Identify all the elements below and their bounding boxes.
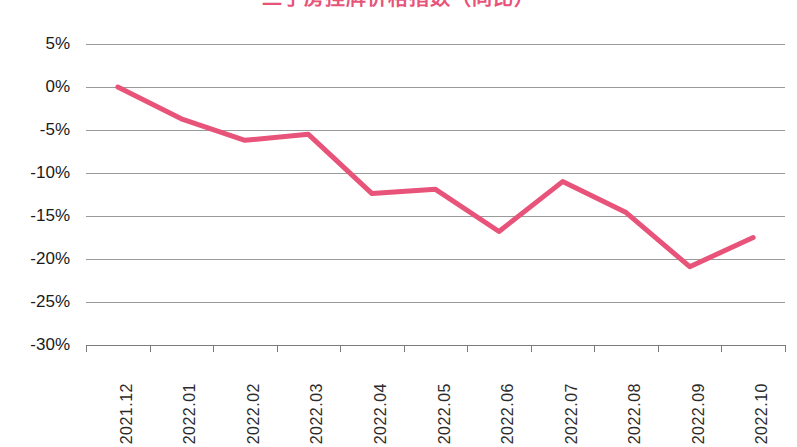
chart-container: 二手房挂牌价格指数（同比） 5%0%-5%-10%-15%-20%-25%-30… [0,0,797,447]
y-axis-tick-label: -5% [0,121,70,138]
x-axis-tick-label-text: 2022.09 [690,383,708,444]
x-axis-tick-label-text: 2022.08 [626,383,644,444]
x-axis-tick-mark [785,345,786,352]
x-axis-tick-label: 2022.10 [745,356,746,444]
gridline [86,87,785,88]
x-axis-tick-label-text: 2022.05 [436,383,454,444]
y-axis-tick-label: -15% [0,207,70,224]
y-axis-tick-label: -25% [0,293,70,310]
y-axis-tick-label: -30% [0,336,70,353]
plot-area [86,44,785,345]
x-axis-tick-mark [658,345,659,352]
x-axis-tick-mark [213,345,214,352]
gridline [86,173,785,174]
x-axis-tick-label: 2022.05 [428,356,429,444]
x-axis-tick-mark [86,345,87,352]
x-axis-tick-label: 2022.09 [682,356,683,444]
x-axis-tick-label: 2022.08 [618,356,619,444]
y-axis-tick-label: 0% [0,78,70,95]
x-axis-tick-mark [721,345,722,352]
x-axis-tick-label-text: 2022.04 [372,383,390,444]
x-axis-tick-label: 2022.01 [173,356,174,444]
x-axis-tick-mark [594,345,595,352]
x-axis-tick-label: 2022.03 [300,356,301,444]
x-axis-tick-label-text: 2022.10 [753,383,771,444]
y-axis-tick-label: -10% [0,164,70,181]
x-axis-tick-label-text: 2022.03 [308,383,326,444]
x-axis-tick-mark [340,345,341,352]
x-axis-tick-mark [277,345,278,352]
x-axis-tick-mark [467,345,468,352]
x-axis-tick-label: 2021.12 [110,356,111,444]
x-axis-tick-mark [150,345,151,352]
gridline [86,216,785,217]
x-axis-tick-label: 2022.02 [237,356,238,444]
y-axis: 5%0%-5%-10%-15%-20%-25%-30% [0,44,78,345]
x-axis-tick-mark [404,345,405,352]
x-axis-tick-label-text: 2022.07 [563,383,581,444]
gridline [86,130,785,131]
x-axis-tick-label: 2022.07 [555,356,556,444]
y-axis-tick-label: 5% [0,35,70,52]
gridline [86,302,785,303]
gridline [86,44,785,45]
x-axis-tick-label: 2022.04 [364,356,365,444]
x-axis-tick-label-text: 2022.02 [245,383,263,444]
x-axis-tick-label-text: 2021.12 [118,383,136,444]
x-axis-tick-label-text: 2022.01 [181,383,199,444]
x-axis-line [86,345,785,346]
x-axis-tick-label-text: 2022.06 [499,383,517,444]
x-axis-tick-mark [531,345,532,352]
y-axis-tick-label: -20% [0,250,70,267]
x-axis-tick-label: 2022.06 [491,356,492,444]
gridline [86,259,785,260]
chart-title: 二手房挂牌价格指数（同比） [0,0,797,13]
